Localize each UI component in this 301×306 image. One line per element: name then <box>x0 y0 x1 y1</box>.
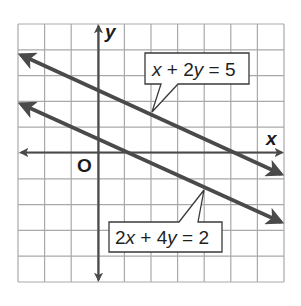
callout-line-2: 2x + 4y = 2 <box>109 190 222 252</box>
origin-label: O <box>77 155 92 176</box>
callout-line-1: x + 2y = 5 <box>145 53 249 112</box>
y-axis-label: y <box>104 21 117 42</box>
line-1-label: x + 2y = 5 <box>151 59 235 80</box>
line-2-label: 2x + 4y = 2 <box>115 227 209 248</box>
x-axis-label: x <box>265 128 278 149</box>
coordinate-plane: y x O x + 2y = 5 2x + 4y = 2 <box>0 0 301 306</box>
